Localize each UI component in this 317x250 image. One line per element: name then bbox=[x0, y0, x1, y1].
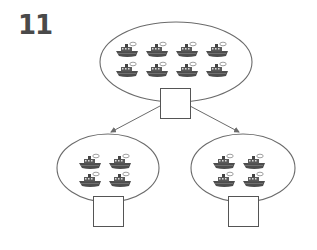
right-boats bbox=[213, 154, 265, 187]
boat-icon bbox=[79, 154, 101, 169]
boat-icon bbox=[206, 62, 228, 77]
boat-icon bbox=[146, 62, 168, 77]
boat-icon bbox=[213, 172, 235, 187]
left-boats bbox=[79, 154, 131, 187]
boat-icon bbox=[116, 42, 138, 57]
boat-icon bbox=[176, 42, 198, 57]
right-group-ellipse bbox=[191, 134, 295, 202]
boat-icon bbox=[243, 172, 265, 187]
left-group-ellipse bbox=[57, 134, 159, 202]
boat-icon bbox=[79, 172, 101, 187]
boat-icon bbox=[109, 154, 131, 169]
boat-icon bbox=[176, 62, 198, 77]
arrow-icon bbox=[190, 106, 239, 132]
boat-icon bbox=[243, 154, 265, 169]
right-answer-box[interactable] bbox=[228, 196, 259, 227]
arrow-icon bbox=[111, 106, 160, 132]
boat-icon bbox=[206, 42, 228, 57]
left-answer-box[interactable] bbox=[93, 196, 124, 227]
part-whole-diagram bbox=[0, 0, 317, 250]
boat-icon bbox=[116, 62, 138, 77]
top-answer-box[interactable] bbox=[160, 88, 191, 119]
top-boats bbox=[116, 42, 228, 77]
boat-icon bbox=[109, 172, 131, 187]
boat-icon bbox=[146, 42, 168, 57]
boat-icon bbox=[213, 154, 235, 169]
